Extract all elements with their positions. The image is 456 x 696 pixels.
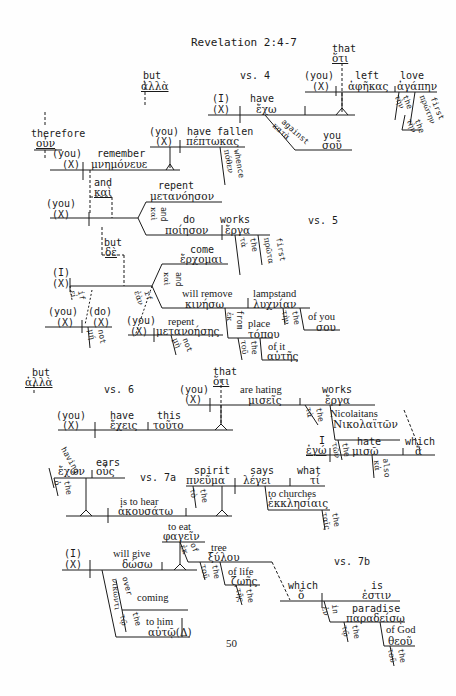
word-gr: δὲ — [105, 247, 117, 258]
word-gr: θεοῦ — [388, 636, 412, 647]
word-gr: μετανόησον — [150, 191, 214, 202]
word-en: (you) — [46, 198, 76, 209]
word-en: in — [330, 604, 339, 614]
word-en: (I) — [212, 93, 230, 104]
word-en: (X) — [312, 81, 330, 92]
word-gr: φαγεῖν — [163, 531, 200, 542]
word-gr: ὅ — [298, 590, 304, 601]
word-gr: τῶν — [330, 442, 341, 459]
word-gr: τῷ — [340, 625, 350, 637]
word-en: (X) — [52, 278, 70, 289]
word-gr: ξύλου — [208, 552, 240, 563]
word-en: (X) — [212, 104, 230, 115]
verse-label-7a: vs. 7a — [140, 472, 176, 483]
word-en: (I) — [64, 548, 82, 559]
word-en: (you) — [48, 306, 78, 317]
word-en: and — [174, 272, 182, 286]
word-en: (X) — [62, 420, 80, 431]
word-gr: ἔχεις — [110, 420, 137, 431]
word-gr: αὐτῷ(Δ) — [148, 627, 192, 638]
word-en: (X) — [56, 317, 74, 328]
word-gr: σου — [316, 322, 336, 333]
word-gr: τόπου — [248, 329, 280, 340]
word-gr: κινήσω — [185, 299, 224, 310]
word-en: from — [235, 310, 243, 329]
word-gr: νικῶντι — [110, 578, 121, 611]
word-gr: ὅτι — [213, 376, 229, 387]
word-gr: μισεῖς — [248, 395, 282, 406]
word-gr: ὅτι — [332, 53, 348, 64]
word-gr: κἀ — [372, 460, 381, 471]
word-gr: ἐκκλησίαις — [268, 498, 328, 509]
word-gr: τὰ — [238, 237, 248, 248]
word-en: the — [244, 588, 254, 604]
word-gr: ἔχω — [256, 104, 277, 115]
word-en: (do) — [88, 306, 112, 317]
word-gr: ζωῆς — [231, 576, 257, 587]
word-gr: τῆς — [234, 588, 244, 603]
word-en: the — [314, 407, 324, 423]
word-en: also — [381, 458, 391, 478]
word-gr: ἀφῆκας — [348, 81, 388, 92]
verse-label-6: vs. 6 — [104, 384, 134, 395]
word-en: the — [396, 648, 406, 664]
word-en: the — [340, 442, 350, 458]
word-gr: ἃ — [415, 446, 422, 457]
word-en: (you) — [52, 148, 82, 159]
word-gr: ταῖς — [320, 512, 331, 531]
word-en: the — [210, 564, 220, 580]
word-gr: ἔργα — [325, 395, 350, 406]
word-gr: οὖς — [96, 466, 115, 477]
word-gr: ἐκ — [225, 312, 233, 321]
word-gr: καὶ — [149, 207, 157, 221]
word-en: the — [198, 488, 208, 504]
word-en: and — [159, 207, 167, 221]
word-gr: λυχνίαν — [253, 299, 296, 310]
word-en: the — [350, 624, 360, 640]
verse-label-4: vs. 4 — [240, 70, 270, 81]
word-en: (X) — [64, 559, 82, 570]
word-gr: μετανοήσῃς — [156, 326, 220, 337]
word-en: (X) — [52, 209, 70, 220]
word-gr: ἀλλὰ — [25, 377, 53, 388]
word-gr: μή — [86, 329, 96, 340]
word-en: (X) — [184, 394, 202, 405]
verse-label-5: vs. 5 — [308, 215, 338, 226]
word-gr: τί — [310, 475, 320, 486]
page-number: 50 — [226, 637, 237, 649]
verse-label-7b: vs. 7b — [334, 556, 370, 567]
word-gr: μνημόνευε — [91, 159, 147, 170]
word-en: (you) — [304, 70, 334, 81]
word-gr: τὸ — [188, 488, 197, 498]
word-gr: τὰ — [304, 407, 314, 418]
word-en: (X) — [130, 326, 148, 337]
word-gr: σοῦ — [322, 140, 342, 151]
word-gr: ἀλλὰ — [141, 81, 169, 92]
word-gr: ἐγώ — [306, 445, 326, 456]
word-gr: Νικολαϊτῶν — [333, 419, 398, 430]
diagram-page: Revelation 2:4-7 vs. 4 vs. 5 vs. 6 vs. 7… — [0, 0, 456, 696]
word-gr: τοῦ — [199, 564, 209, 579]
word-en: of God — [386, 624, 415, 635]
word-gr: ποίησον — [165, 225, 209, 236]
word-gr: ἔρχομαι — [180, 254, 223, 265]
word-gr: τοῦ — [386, 648, 396, 663]
word-gr: λέγει — [243, 475, 271, 486]
word-gr: εἰ — [68, 290, 77, 299]
word-gr: καὶ — [94, 187, 112, 198]
word-gr: τὴν — [280, 310, 290, 325]
word-gr: ἀκουσάτω — [118, 506, 173, 517]
word-gr: ἐστιν — [362, 590, 391, 601]
word-gr: ἔχων — [58, 466, 85, 477]
word-en: the — [330, 512, 340, 528]
word-gr: πνεῦμα — [186, 475, 225, 486]
word-en: coming — [137, 592, 169, 603]
word-en: the — [290, 310, 300, 326]
word-en: the — [62, 480, 72, 496]
word-gr: πέπτωκας — [186, 136, 239, 147]
word-gr: αὐτῆς — [267, 351, 298, 362]
word-gr: τοῦ — [239, 340, 248, 355]
word-en: (I) — [52, 267, 70, 278]
word-gr: καὶ — [162, 272, 170, 286]
word-gr: τῷ — [118, 614, 128, 626]
